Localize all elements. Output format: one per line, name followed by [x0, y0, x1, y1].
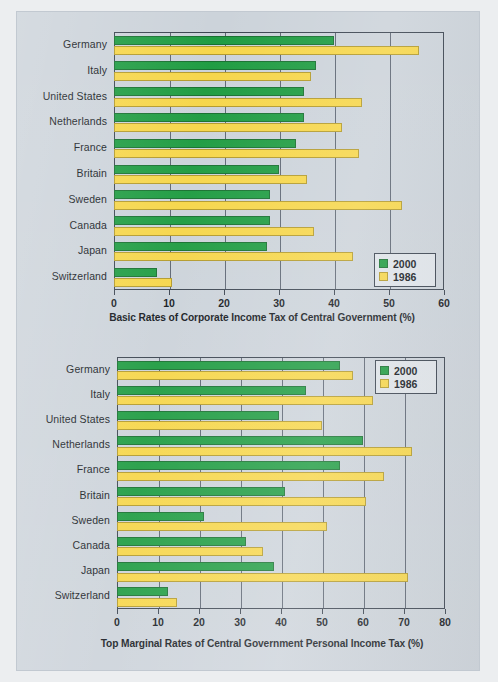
- bar-2000-united-states: [117, 411, 279, 420]
- x-tick-mark: [240, 609, 241, 614]
- x-tick-mark: [404, 609, 405, 614]
- bar-2000-italy: [117, 386, 306, 395]
- x-axis-title: Top Marginal Rates of Central Government…: [77, 638, 447, 649]
- bar-2000-britain: [114, 165, 279, 174]
- bar-2000-france: [114, 139, 296, 148]
- x-tick-label: 40: [275, 616, 287, 628]
- bar-1986-sweden: [117, 522, 327, 531]
- category-label: Japan: [81, 564, 110, 576]
- x-tick-label: 20: [218, 297, 230, 309]
- bar-1986-italy: [117, 396, 373, 405]
- legend-label: 1986: [394, 378, 417, 390]
- bar-1986-netherlands: [117, 447, 412, 456]
- category-label: Switzerland: [55, 589, 110, 601]
- x-tick-label: 50: [383, 297, 395, 309]
- chart-legend: 20001986: [375, 360, 437, 394]
- bar-2000-united-states: [114, 87, 304, 96]
- category-label: France: [77, 463, 110, 475]
- legend-entry-2000: 2000: [380, 364, 430, 377]
- category-label: Sweden: [71, 514, 110, 526]
- legend-label: 2000: [393, 258, 416, 270]
- x-tick-mark: [281, 609, 282, 614]
- x-tick-label: 60: [438, 297, 450, 309]
- legend-swatch-1986-icon: [379, 272, 388, 281]
- x-tick-mark: [117, 609, 118, 614]
- legend-entry-1986: 1986: [379, 270, 429, 283]
- category-label: United States: [46, 413, 110, 425]
- x-tick-label: 70: [398, 616, 410, 628]
- plot-area-top: GermanyItalyUnited StatesNetherlandsFran…: [17, 12, 479, 342]
- bar-1986-canada: [114, 227, 314, 236]
- gridline: [405, 358, 406, 608]
- x-tick-mark: [158, 609, 159, 614]
- category-label: Germany: [63, 38, 107, 50]
- bar-2000-sweden: [114, 190, 270, 199]
- category-label: Canada: [73, 539, 110, 551]
- bar-1986-united-states: [117, 421, 322, 430]
- category-label: Netherlands: [49, 115, 107, 127]
- gridline: [335, 33, 336, 289]
- x-tick-mark: [199, 609, 200, 614]
- category-label: Germany: [66, 363, 110, 375]
- x-tick-mark: [363, 609, 364, 614]
- legend-swatch-2000-icon: [379, 259, 388, 268]
- gridline: [390, 33, 391, 289]
- legend-entry-2000: 2000: [379, 257, 429, 270]
- bar-2000-netherlands: [114, 113, 304, 122]
- category-label: Britain: [77, 167, 107, 179]
- x-tick-mark: [334, 290, 335, 295]
- bar-2000-netherlands: [117, 436, 363, 445]
- x-tick-label: 80: [439, 616, 451, 628]
- category-label: Canada: [70, 219, 107, 231]
- bar-2000-switzerland: [114, 268, 157, 277]
- x-tick-mark: [322, 609, 323, 614]
- bar-2000-britain: [117, 487, 285, 496]
- bar-1986-japan: [114, 252, 353, 261]
- bar-2000-japan: [117, 562, 274, 571]
- bar-2000-germany: [117, 361, 340, 370]
- bar-1986-germany: [114, 46, 419, 55]
- plot-frame: [117, 357, 445, 609]
- x-tick-mark: [169, 290, 170, 295]
- chart-legend: 20001986: [374, 253, 436, 287]
- bar-1986-france: [114, 149, 359, 158]
- bar-2000-sweden: [117, 512, 204, 521]
- x-tick-mark: [389, 290, 390, 295]
- bar-1986-france: [117, 472, 384, 481]
- x-tick-label: 0: [111, 297, 117, 309]
- bar-2000-germany: [114, 36, 334, 45]
- bar-2000-japan: [114, 242, 267, 251]
- x-axis-title: Basic Rates of Corporate Income Tax of C…: [77, 312, 447, 323]
- legend-swatch-2000-icon: [380, 366, 389, 375]
- x-tick-label: 20: [193, 616, 205, 628]
- bar-1986-switzerland: [114, 278, 172, 287]
- x-tick-label: 30: [234, 616, 246, 628]
- x-tick-label: 50: [316, 616, 328, 628]
- bar-2000-france: [117, 461, 340, 470]
- legend-label: 1986: [393, 271, 416, 283]
- x-tick-label: 0: [114, 616, 120, 628]
- bar-1986-britain: [117, 497, 366, 506]
- category-label: France: [74, 141, 107, 153]
- category-label: Netherlands: [52, 438, 110, 450]
- category-label: United States: [43, 90, 107, 102]
- legend-entry-1986: 1986: [380, 377, 430, 390]
- bar-1986-netherlands: [114, 123, 342, 132]
- screenshot-page: GermanyItalyUnited StatesNetherlandsFran…: [0, 0, 498, 682]
- x-tick-label: 10: [152, 616, 164, 628]
- category-label: Switzerland: [52, 270, 107, 282]
- bar-2000-canada: [114, 216, 270, 225]
- x-tick-label: 40: [328, 297, 340, 309]
- bar-1986-switzerland: [117, 598, 177, 607]
- scanned-figure-sheet: GermanyItalyUnited StatesNetherlandsFran…: [17, 12, 479, 670]
- legend-label: 2000: [394, 365, 417, 377]
- category-label: Japan: [78, 244, 107, 256]
- x-tick-mark: [445, 609, 446, 614]
- category-label: Britain: [80, 489, 110, 501]
- x-tick-label: 30: [273, 297, 285, 309]
- bar-1986-canada: [117, 547, 263, 556]
- bar-1986-germany: [117, 371, 353, 380]
- x-tick-label: 10: [163, 297, 175, 309]
- category-label: Italy: [87, 64, 107, 76]
- category-label: Italy: [90, 388, 110, 400]
